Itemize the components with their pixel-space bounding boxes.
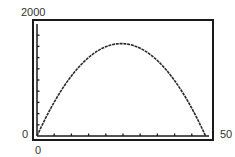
data-curve [37, 44, 206, 136]
outer-frame [33, 20, 213, 140]
graph-frame [33, 20, 213, 140]
plot-area [0, 0, 235, 157]
axes [37, 24, 209, 136]
axis-ticks [37, 35, 192, 136]
